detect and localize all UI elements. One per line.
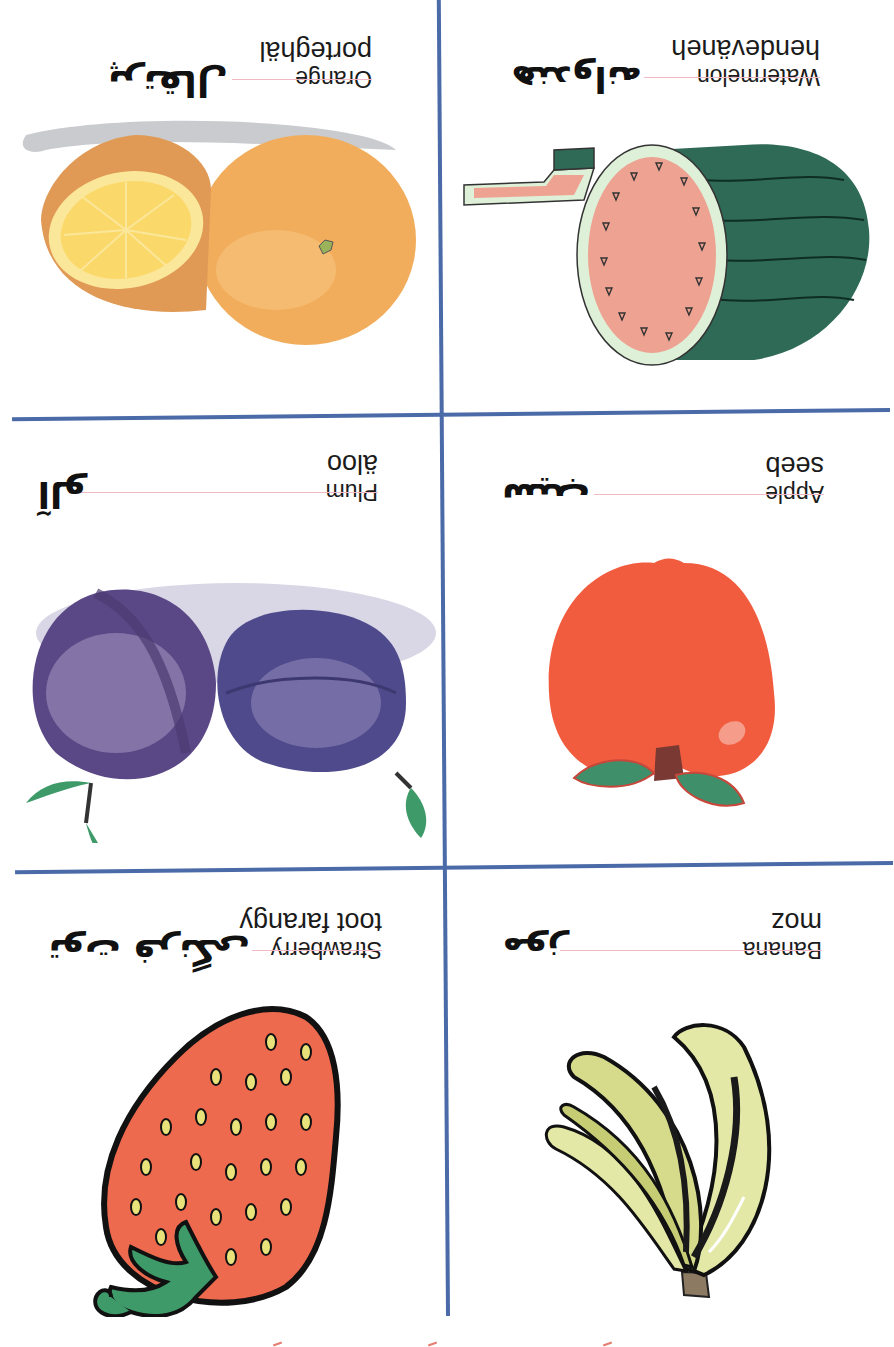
persian-word: هندوانه [511,59,642,100]
label-divider [594,494,824,495]
label-block: Apple seeb [765,451,824,507]
label-block: Orange porteghäl [259,36,372,92]
watermelon-illustration [454,120,884,380]
transliteration: äloo [326,449,378,479]
transliteration: porteghäl [259,36,372,66]
persian-word: موز [502,931,568,972]
banana-illustration [544,1007,804,1307]
label-block: Watermelon hendeväneh [671,34,820,90]
orange-illustration [6,90,426,350]
strawberry-illustration [86,997,346,1317]
card-banana: Banana moz موز [450,865,894,1347]
card-plum: Plum äloo آلو [0,412,446,863]
plum-illustration [6,543,436,843]
label-block: Plum äloo [326,449,378,505]
label-block: Banana moz [743,907,822,963]
transliteration: seeb [765,451,824,481]
persian-word: توت فرنگی [48,932,250,973]
persian-word: آلو [38,474,86,515]
transliteration: toot farangy [239,907,382,937]
persian-word: سیب [502,476,590,517]
apple-illustration [524,543,804,833]
card-orange: Orange porteghäl پرتقال [0,0,446,410]
label-divider [560,950,822,951]
label-divider [232,79,372,80]
card-strawberry: Strawberry toot farangy توت فرنگی [0,865,446,1347]
card-apple: Apple seeb سیب [450,412,894,863]
transliteration: hendeväneh [671,34,820,64]
label-divider [78,492,378,493]
label-block: Strawberry toot farangy [239,907,382,963]
label-divider [644,77,820,78]
card-watermelon: Watermelon hendeväneh هندوانه [450,0,894,410]
flashcard-sheet: Banana moz موز Strawberry toot farangy ت… [0,0,894,1347]
label-divider [252,950,382,951]
transliteration: moz [743,907,822,937]
